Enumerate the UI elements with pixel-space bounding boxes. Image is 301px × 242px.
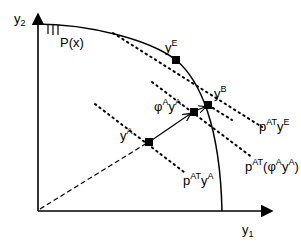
price-line-phi-yA xyxy=(152,82,253,158)
label-phi-yA: φAyA xyxy=(154,97,181,114)
arrow-yA-to-phi xyxy=(152,114,190,140)
ray-origin-yA xyxy=(40,143,147,209)
label-price-phi-yA: pAT(φAyA) xyxy=(245,157,299,174)
price-line-yE xyxy=(113,33,262,127)
price-line-yA xyxy=(95,104,184,172)
point-yE xyxy=(172,56,180,64)
frontier-curve xyxy=(36,24,222,211)
y1-axis-label: y1 xyxy=(242,222,254,239)
label-yA: yA xyxy=(120,126,133,143)
frontier-hatch xyxy=(48,25,58,35)
y2-axis-label: y2 xyxy=(14,11,26,28)
point-yB xyxy=(204,101,212,109)
label-yB: yB xyxy=(214,84,227,101)
point-phi-yA xyxy=(190,108,198,116)
arrow-phi-to-yB xyxy=(197,107,205,110)
label-yE: yE xyxy=(165,38,178,55)
frontier-label: P(x) xyxy=(60,35,84,50)
point-yA xyxy=(145,138,153,146)
label-price-yE: pATyE xyxy=(259,117,290,134)
efficiency-diagram: y2 y1 P(x) yE yB φAyA yA pATyE pAT(φAyA)… xyxy=(0,0,301,242)
label-price-yA: pATyA xyxy=(183,171,214,188)
